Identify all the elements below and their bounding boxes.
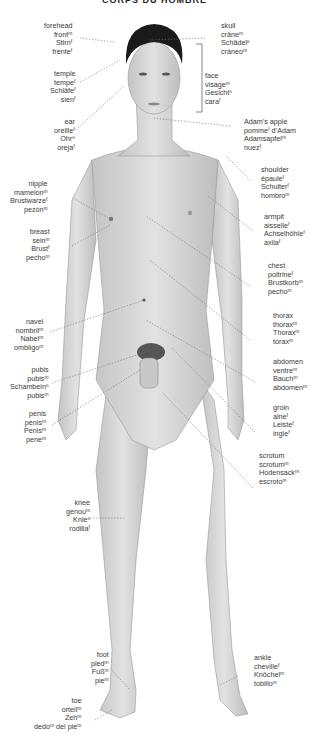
- label-scrotum: scrotumscrotumᵐHodensackᵐescrotoᵐ: [259, 452, 299, 486]
- label-adams-apple: Adam’s applepommeᶠ d’AdamAdamsapfelᵐnuez…: [244, 118, 296, 152]
- label-ear: earoreilleᶠOhrⁿorejaᶠ: [54, 118, 75, 152]
- label-thorax: thoraxthoraxᵐThoraxᵐtóraxᵐ: [273, 312, 300, 346]
- label-shoulder: shoulderépauleᶠSchulterᶠhombroᵐ: [261, 166, 290, 200]
- label-groin: groinaineᶠLeisteᶠingleᶠ: [273, 404, 294, 438]
- label-navel: navelnombrilᵐNabelᵐombligoᵐ: [14, 318, 43, 352]
- label-chest: chestpoitrineᶠBrustkorbᵐpechoᵐ: [268, 262, 303, 296]
- label-nipple: nipplemamelonᵐBrustwarzeᶠpezónᵐ: [10, 180, 48, 214]
- label-forehead: foreheadfrontᵐStirnᶠfrenteᶠ: [44, 22, 72, 56]
- label-foot: footpiedᵐFußᵐpieᵐ: [91, 651, 109, 685]
- label-knee: kneegenouᵐKnieⁿrodillaᶠ: [66, 499, 90, 533]
- label-skull: skullcrâneᵐSchädelⁿcráneoᵐ: [221, 22, 250, 56]
- label-pubis: pubispubisᵐSchambeinⁿpubisᵐ: [10, 366, 49, 400]
- label-breast: breastseinᵐBrustᶠpechoᵐ: [26, 228, 50, 262]
- label-ankle: anklechevilleᶠKnöchelᵐtobilloᵐ: [254, 654, 284, 688]
- label-armpit: armpitaisselleᶠAchselhöhleᶠaxilaᶠ: [264, 213, 305, 247]
- label-toe: toeorteilᵐZehᵐdedoᵐ del pieᵐ: [34, 697, 81, 731]
- label-face: facevisageᵐGesichtⁿcaraᶠ: [205, 72, 232, 106]
- label-abdomen: abdomenventreᵐBauchᵐabdomenᵐ: [273, 358, 307, 392]
- label-temple: templetempeᶠSchläfeᶠsienᶠ: [50, 70, 76, 104]
- label-penis: penispénisᵐPenisᵐpeneᵐ: [24, 410, 46, 444]
